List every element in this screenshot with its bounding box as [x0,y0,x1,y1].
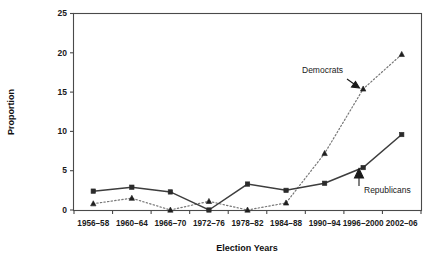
data-point-democrats [129,195,134,200]
x-tick-label: 1996–2000 [343,219,384,228]
data-point-democrats [206,198,211,203]
data-point-republicans [130,185,134,189]
x-tick-label: 1984–88 [270,219,302,228]
annotation-democrats-label: Democrats [302,65,343,75]
x-tick-label: 1972–76 [193,219,225,228]
data-point-republicans [361,165,365,169]
data-point-democrats [399,51,404,56]
y-tick-label: 10 [58,126,68,136]
line-chart-svg: 0510152025 1956–581960–641966–701972–761… [0,0,435,258]
data-point-republicans [91,189,95,193]
x-axis-title: Election Years [216,243,277,253]
x-tick-label: 1966–70 [154,219,186,228]
y-tick-label: 25 [58,8,68,18]
x-tick-label: 2002–06 [386,219,418,228]
annotation-republicans: Republicans [355,169,411,196]
series-line-democrats [93,54,401,210]
x-tick-label: 1978–82 [232,219,264,228]
annotation-democrats: Democrats [302,65,360,88]
data-point-democrats [283,200,288,205]
y-axis-title: Proportion [6,89,16,135]
data-point-republicans [400,132,404,136]
x-tick-label: 1960–64 [116,219,148,228]
data-point-republicans [284,188,288,192]
annotation-republicans-label: Republicans [364,185,411,195]
y-tick-label: 5 [62,165,67,175]
y-axis-tick-labels: 0510152025 [58,8,68,215]
y-tick-label: 20 [58,48,68,58]
data-point-republicans [245,182,249,186]
series-line-republicans [93,135,401,210]
x-tick-label: 1956–58 [77,219,109,228]
data-point-republicans [322,181,326,185]
data-point-republicans [168,190,172,194]
y-tick-label: 0 [62,205,67,215]
x-axis-tick-labels: 1956–581960–641966–701972–761978–821984–… [77,219,418,228]
y-tick-label: 15 [58,87,68,97]
chart-figure: 0510152025 1956–581960–641966–701972–761… [0,0,435,258]
x-tick-label: 1990–94 [309,219,341,228]
plot-area-frame [74,14,422,211]
data-point-republicans [207,208,211,212]
